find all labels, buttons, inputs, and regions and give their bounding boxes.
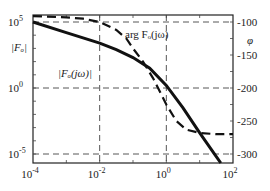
left-tick-label: 100: [8, 80, 23, 94]
right-tick-label: -100: [237, 16, 258, 28]
x-axis-tick-labels: 10-410-2100102: [21, 166, 237, 180]
magnitude-curve: [33, 22, 221, 163]
right-tick-label: -250: [237, 115, 258, 127]
x-tick-label: 10-2: [88, 166, 106, 180]
x-tick-label: 100: [156, 166, 171, 180]
left-tick-label: 105: [8, 14, 23, 28]
bode-plot: 10-410-2100102 10510010-5 -100-150-200-2…: [0, 0, 270, 191]
left-axis-tick-labels: 10510010-5: [8, 14, 26, 160]
x-tick-label: 102: [223, 166, 238, 180]
magnitude-curve-label: |Fₒ(jω)|: [58, 67, 92, 80]
phase-curve-label: arg Fₒ(jω): [125, 28, 169, 41]
right-axis-label: φ: [247, 34, 253, 46]
x-tick-label: 10-4: [21, 166, 39, 180]
right-tick-label: -150: [237, 49, 258, 61]
right-tick-label: -200: [237, 82, 258, 94]
right-tick-label: -300: [237, 148, 258, 160]
left-axis-label: |Fₒ|: [11, 41, 27, 53]
left-tick-label: 10-5: [8, 146, 26, 160]
